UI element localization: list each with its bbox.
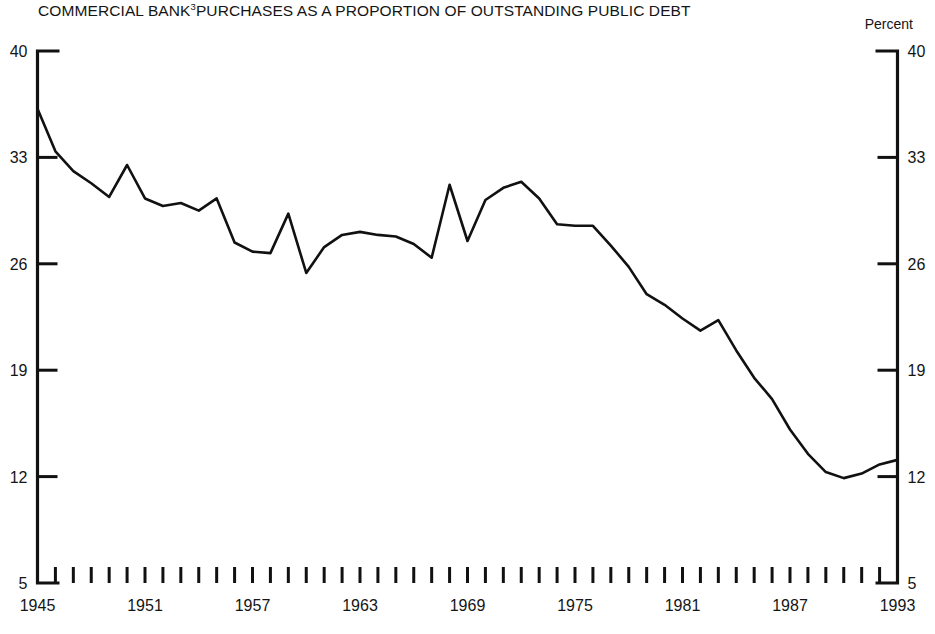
x-tick-label: 1957 bbox=[235, 597, 271, 614]
x-tick-label: 1981 bbox=[665, 597, 701, 614]
chart-page: COMMERCIAL BANK3PURCHASES AS A PROPORTIO… bbox=[0, 0, 935, 634]
y-tick-label-right: 12 bbox=[908, 469, 926, 486]
y-tick-label-right: 5 bbox=[908, 575, 917, 592]
x-tick-label: 1987 bbox=[772, 597, 808, 614]
chart-axes bbox=[38, 51, 898, 583]
chart-data-series bbox=[38, 109, 898, 478]
x-tick-label: 1945 bbox=[20, 597, 56, 614]
line-chart-plot: 4040333326261919121255194519511957196319… bbox=[0, 0, 935, 634]
chart-tick-labels: 4040333326261919121255194519511957196319… bbox=[10, 43, 926, 614]
y-tick-label-right: 40 bbox=[908, 43, 926, 60]
y-tick-label-right: 26 bbox=[908, 256, 926, 273]
x-tick-label: 1993 bbox=[880, 597, 916, 614]
x-tick-label: 1975 bbox=[557, 597, 593, 614]
y-tick-label-left: 5 bbox=[19, 575, 28, 592]
y-axis-right bbox=[876, 51, 898, 583]
y-tick-label-left: 26 bbox=[10, 256, 28, 273]
y-tick-label-left: 19 bbox=[10, 362, 28, 379]
chart-tick-marks bbox=[38, 157, 898, 583]
x-tick-label: 1969 bbox=[450, 597, 486, 614]
x-tick-label: 1951 bbox=[127, 597, 163, 614]
y-tick-label-right: 33 bbox=[908, 149, 926, 166]
y-tick-label-right: 19 bbox=[908, 362, 926, 379]
y-tick-label-left: 40 bbox=[10, 43, 28, 60]
y-tick-label-left: 12 bbox=[10, 469, 28, 486]
data-line-commercial-bank-purchases bbox=[38, 109, 898, 478]
y-tick-label-left: 33 bbox=[10, 149, 28, 166]
x-tick-label: 1963 bbox=[342, 597, 378, 614]
y-axis-left bbox=[38, 51, 60, 583]
